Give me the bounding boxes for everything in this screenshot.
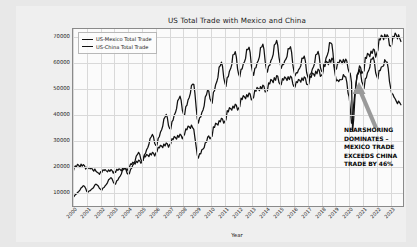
gridline-vertical bbox=[239, 29, 240, 206]
gridline-vertical bbox=[142, 29, 143, 206]
x-tick-label: 2011 bbox=[217, 206, 230, 219]
x-tick-label: 2012 bbox=[231, 206, 244, 219]
x-tick-label: 2005 bbox=[134, 206, 147, 219]
gridline-vertical bbox=[335, 29, 336, 206]
x-tick-label: 2006 bbox=[148, 206, 161, 219]
gridline-vertical bbox=[197, 29, 198, 206]
annotation-line-3: EXCEEDS CHINA bbox=[344, 152, 408, 161]
gridline-vertical bbox=[101, 29, 102, 206]
x-tick-label: 2010 bbox=[203, 206, 216, 219]
legend-item-us-mexico: US-Mexico Total Trade bbox=[82, 36, 152, 43]
gridline-vertical bbox=[280, 29, 281, 206]
x-tick-label: 2016 bbox=[286, 206, 299, 219]
gridline-vertical bbox=[156, 29, 157, 206]
y-axis-ticks: 10000200003000040000500006000070000 bbox=[34, 28, 70, 205]
gridline-vertical bbox=[183, 29, 184, 206]
gridline-vertical bbox=[322, 29, 323, 206]
gridline-vertical bbox=[87, 29, 88, 206]
x-tick-label: 2019 bbox=[327, 206, 340, 219]
gridline-vertical bbox=[252, 29, 253, 206]
legend-label-us-mexico: US-Mexico Total Trade bbox=[96, 36, 152, 42]
y-tick-label: 70000 bbox=[36, 33, 70, 39]
x-tick-label: 2017 bbox=[300, 206, 313, 219]
x-axis-ticks: 2000200120022003200420052006200720082009… bbox=[72, 206, 402, 232]
x-tick-label: 2013 bbox=[244, 206, 257, 219]
gridline-vertical bbox=[308, 29, 309, 206]
chart-figure: US Total Trade with Mexico and China Tot… bbox=[0, 0, 417, 247]
legend-item-us-china: US-China Total Trade bbox=[82, 43, 152, 50]
x-tick-label: 2015 bbox=[272, 206, 285, 219]
y-tick-label: 60000 bbox=[36, 59, 70, 65]
annotation-line-0: NEARSHORING bbox=[344, 126, 408, 135]
gridline-vertical bbox=[114, 29, 115, 206]
x-tick-label: 2002 bbox=[92, 206, 105, 219]
figure-inner-panel: US Total Trade with Mexico and China Tot… bbox=[16, 6, 406, 242]
gridline-vertical bbox=[294, 29, 295, 206]
chart-legend: US-Mexico Total Trade US-China Total Tra… bbox=[78, 32, 157, 54]
x-tick-label: 2020 bbox=[341, 206, 354, 219]
legend-line-icon bbox=[82, 39, 93, 40]
y-tick-label: 20000 bbox=[36, 163, 70, 169]
gridline-vertical bbox=[225, 29, 226, 206]
gridline-vertical bbox=[73, 29, 74, 206]
annotation-line-2: MEXICO TRADE bbox=[344, 143, 408, 152]
x-tick-label: 2018 bbox=[313, 206, 326, 219]
annotation-arrow-icon bbox=[346, 78, 386, 130]
x-tick-label: 2001 bbox=[79, 206, 92, 219]
x-tick-label: 2007 bbox=[162, 206, 175, 219]
x-tick-label: 2009 bbox=[189, 206, 202, 219]
y-tick-label: 30000 bbox=[36, 137, 70, 143]
gridline-vertical bbox=[211, 29, 212, 206]
x-tick-label: 2023 bbox=[382, 206, 395, 219]
gridline-vertical bbox=[128, 29, 129, 206]
annotation-line-1: DOMINATES – bbox=[344, 135, 408, 144]
x-tick-label: 2022 bbox=[369, 206, 382, 219]
x-tick-label: 2014 bbox=[258, 206, 271, 219]
annotation-callout: NEARSHORINGDOMINATES –MEXICO TRADEEXCEED… bbox=[344, 126, 408, 169]
annotation-line-4: TRADE BY 46% bbox=[344, 160, 408, 169]
x-tick-label: 2003 bbox=[106, 206, 119, 219]
y-tick-label: 40000 bbox=[36, 111, 70, 117]
gridline-vertical bbox=[266, 29, 267, 206]
x-tick-label: 2000 bbox=[65, 206, 78, 219]
gridline-vertical bbox=[170, 29, 171, 206]
x-tick-label: 2004 bbox=[120, 206, 133, 219]
legend-line-icon bbox=[82, 46, 93, 47]
chart-title: US Total Trade with Mexico and China bbox=[72, 16, 402, 25]
x-axis-label: Year bbox=[72, 232, 402, 238]
y-tick-label: 50000 bbox=[36, 85, 70, 91]
x-tick-label: 2021 bbox=[355, 206, 368, 219]
x-tick-label: 2008 bbox=[175, 206, 188, 219]
legend-label-us-china: US-China Total Trade bbox=[96, 44, 148, 50]
y-tick-label: 10000 bbox=[36, 189, 70, 195]
gridline-vertical bbox=[391, 29, 392, 206]
